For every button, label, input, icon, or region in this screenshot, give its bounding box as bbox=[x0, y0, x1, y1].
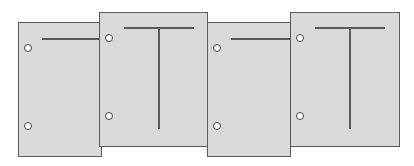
sheet-3 bbox=[207, 22, 291, 157]
t-stem bbox=[349, 27, 351, 129]
punch-hole-bottom bbox=[105, 112, 113, 120]
punch-hole-top bbox=[213, 44, 221, 52]
punch-hole-top bbox=[105, 34, 113, 42]
punch-hole-top bbox=[296, 34, 304, 42]
sheet-4 bbox=[290, 12, 400, 147]
sheet-1 bbox=[18, 22, 102, 157]
punch-hole-top bbox=[24, 44, 32, 52]
punch-hole-bottom bbox=[24, 122, 32, 130]
sheet-2 bbox=[99, 12, 208, 147]
horizontal-line bbox=[42, 38, 102, 40]
punch-hole-bottom bbox=[213, 122, 221, 130]
horizontal-line bbox=[231, 38, 291, 40]
t-stem bbox=[158, 27, 160, 129]
punch-hole-bottom bbox=[296, 112, 304, 120]
